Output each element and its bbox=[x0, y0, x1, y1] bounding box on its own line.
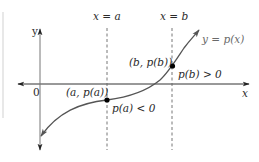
point-b-annotation: p(b) > 0 bbox=[178, 69, 222, 80]
ivt-diagram: y x 0 x = a x = b y = p(x) (a, p(a)) p(a… bbox=[0, 0, 259, 162]
x-axis-label: x bbox=[242, 88, 248, 99]
point-a-label: (a, p(a)) bbox=[66, 87, 108, 98]
point-a-annotation: p(a) < 0 bbox=[112, 103, 155, 114]
point-b-label: (b, p(b)) bbox=[129, 57, 172, 68]
curve-label: y = p(x) bbox=[202, 34, 244, 45]
origin-label: 0 bbox=[33, 87, 40, 98]
diagram-canvas bbox=[0, 0, 259, 162]
y-axis-label: y bbox=[32, 26, 38, 37]
point-a bbox=[104, 97, 109, 102]
line-b-label: x = b bbox=[160, 11, 188, 22]
line-a-label: x = a bbox=[93, 11, 121, 22]
curve-p-of-x bbox=[41, 30, 199, 136]
